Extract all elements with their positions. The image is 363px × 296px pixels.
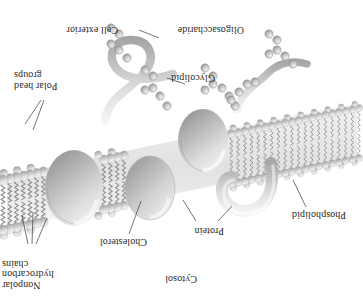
sugar-bead bbox=[243, 80, 251, 88]
sugar-bead bbox=[149, 84, 157, 92]
polar-head-group bbox=[308, 164, 315, 171]
label-cholesterol: Cholesterol bbox=[100, 237, 147, 248]
label-cytosol: Cytosol bbox=[151, 274, 211, 285]
polar-head-group bbox=[95, 151, 102, 158]
sugar-bead bbox=[289, 60, 297, 68]
polar-head-group bbox=[335, 109, 342, 116]
polar-head-group bbox=[0, 175, 8, 185]
sugar-bead bbox=[141, 86, 149, 94]
sugar-bead bbox=[163, 102, 171, 110]
polar-head-group bbox=[268, 122, 276, 130]
sugar-bead bbox=[235, 88, 243, 96]
polar-head-group bbox=[254, 124, 262, 132]
sugar-bead bbox=[251, 78, 259, 86]
sugar-bead bbox=[281, 52, 289, 60]
label-polar-head-groups: Polar head groups bbox=[14, 70, 66, 91]
hydrocarbon-tail bbox=[1, 206, 5, 227]
hydrocarbon-tail bbox=[358, 110, 361, 132]
label-phospholipid: Phospholipid bbox=[292, 210, 346, 221]
polar-head-group bbox=[0, 225, 8, 235]
polar-head-group bbox=[308, 114, 315, 121]
leader-oligosaccharide bbox=[139, 30, 159, 38]
leader-polar-head-b bbox=[25, 100, 41, 124]
sugar-bead bbox=[265, 50, 273, 58]
label-oligosaccharide: Oligosaccharide bbox=[178, 25, 244, 36]
sugar-bead bbox=[149, 72, 157, 80]
polar-head-group bbox=[227, 130, 235, 138]
polar-head-group bbox=[254, 175, 262, 183]
sugar-bead bbox=[141, 66, 149, 74]
sugar-bead bbox=[115, 46, 123, 54]
sugar-bead bbox=[201, 64, 209, 72]
cholesterol-molecule bbox=[125, 156, 175, 220]
polar-head-group bbox=[322, 111, 329, 118]
label-glycolipid: Glycolipid bbox=[171, 73, 215, 84]
leader-phospholipid bbox=[293, 180, 306, 207]
polar-head-group bbox=[335, 159, 342, 166]
sugar-bead bbox=[123, 54, 131, 62]
label-cell-exterior: Cell exterior bbox=[66, 25, 118, 36]
polar-head-group bbox=[349, 106, 356, 113]
leader-protein-b bbox=[183, 200, 196, 221]
sugar-bead bbox=[218, 84, 226, 92]
integral-protein-right bbox=[45, 150, 103, 226]
polar-head-group bbox=[295, 117, 302, 124]
sugar-bead bbox=[107, 40, 115, 48]
sugar-bead bbox=[156, 92, 164, 100]
sugar-bead bbox=[265, 30, 273, 38]
hydrocarbon-tail bbox=[1, 183, 5, 204]
sugar-bead bbox=[273, 36, 281, 44]
sugar-bead bbox=[273, 46, 281, 54]
sugar-bead bbox=[201, 86, 209, 94]
sugar-bead bbox=[227, 96, 235, 104]
membrane-artwork bbox=[0, 0, 363, 296]
polar-head-group bbox=[295, 167, 302, 174]
polar-head-group bbox=[322, 161, 329, 168]
polar-head-group bbox=[281, 169, 289, 177]
membrane-diagram-figure: Cytosol Nonpolar hydrocarbon chains Chol… bbox=[0, 0, 363, 296]
polar-head-group bbox=[349, 156, 356, 163]
hydrocarbon-tail bbox=[358, 134, 361, 156]
leader-polar-head-a bbox=[33, 100, 44, 130]
polar-head-group bbox=[241, 177, 249, 185]
polar-head-group bbox=[241, 127, 249, 135]
label-protein: Protein bbox=[194, 226, 224, 237]
label-nonpolar-hydrocarbon-chains: Nonpolar hydrocarbon chains bbox=[2, 259, 82, 291]
polar-head-group bbox=[281, 119, 289, 127]
membrane-illustration bbox=[0, 0, 363, 296]
integral-protein-left bbox=[178, 109, 228, 171]
